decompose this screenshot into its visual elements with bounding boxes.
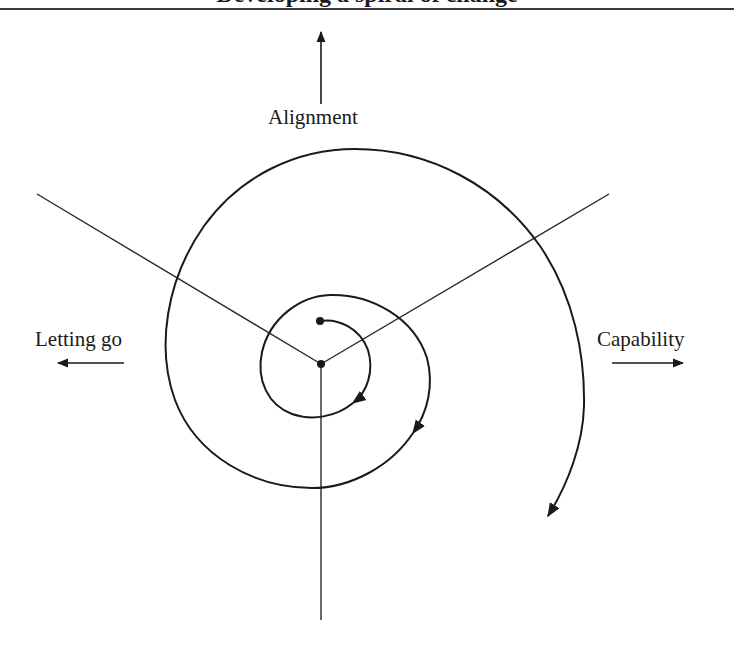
radial-line-upper-right xyxy=(321,194,609,364)
spiral-start-dot xyxy=(316,317,324,325)
spiral-middle-turn xyxy=(260,295,429,433)
label-letting-go: Letting go xyxy=(35,327,122,352)
label-capability: Capability xyxy=(597,327,685,352)
label-alignment: Alignment xyxy=(268,105,358,130)
center-dot xyxy=(317,360,325,368)
spiral-inner-turn xyxy=(320,320,370,403)
spiral-diagram: Developing a spiral of change xyxy=(0,0,734,657)
radial-lines xyxy=(37,194,609,620)
axis-arrows xyxy=(58,32,683,363)
